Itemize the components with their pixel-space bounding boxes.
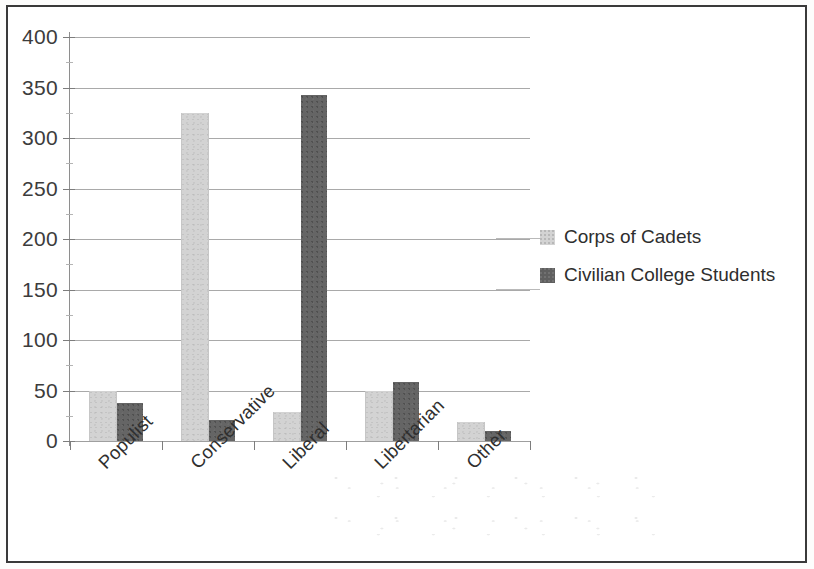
bar-corps-of-cadets: [181, 113, 209, 441]
x-axis-tick-mark: [346, 441, 347, 450]
y-axis-tick-label: 400: [0, 26, 58, 47]
scan-artifact: [330, 470, 660, 550]
x-axis-tick-mark: [438, 441, 439, 450]
legend-label: Civilian College Students: [564, 264, 775, 286]
y-axis-tick-label: 50: [0, 380, 58, 401]
y-axis-tick-label: 300: [0, 127, 58, 148]
y-axis-tick-label: 350: [0, 77, 58, 98]
y-axis-tick-label: 100: [0, 329, 58, 350]
bar-civilian-college-students: [301, 95, 327, 441]
chart-legend: Corps of Cadets Civilian College Student…: [540, 218, 802, 294]
y-axis-tick-label: 150: [0, 279, 58, 300]
legend-label: Corps of Cadets: [564, 226, 701, 248]
x-axis-tick-mark: [530, 441, 531, 450]
bar-group: [70, 37, 162, 441]
legend-item-corps-of-cadets: Corps of Cadets: [540, 218, 802, 256]
legend-swatch-icon: [540, 230, 555, 245]
y-axis-tick-label: 0: [0, 430, 58, 451]
bar-group: [438, 37, 530, 441]
legend-item-civilian-college-students: Civilian College Students: [540, 256, 802, 294]
scanned-page: 050100150200250300350400 PopulistConserv…: [0, 0, 814, 569]
bar-corps-of-cadets: [89, 391, 117, 442]
x-axis-tick-mark: [254, 441, 255, 450]
x-axis-tick-mark: [70, 441, 71, 450]
bar-corps-of-cadets: [365, 391, 393, 442]
bar-groups: [70, 37, 530, 441]
x-axis-tick-mark: [162, 441, 163, 450]
bar-group: [346, 37, 438, 441]
legend-leader-line: [496, 238, 540, 239]
bar-group: [162, 37, 254, 441]
legend-leader-line: [496, 289, 540, 290]
bar-chart: 050100150200250300350400 PopulistConserv…: [0, 0, 814, 569]
legend-swatch-icon: [540, 268, 555, 283]
bar-group: [254, 37, 346, 441]
bar-corps-of-cadets: [273, 412, 301, 441]
y-axis-tick-mark: [63, 441, 75, 442]
y-axis-tick-label: 250: [0, 178, 58, 199]
y-axis-tick-label: 200: [0, 228, 58, 249]
